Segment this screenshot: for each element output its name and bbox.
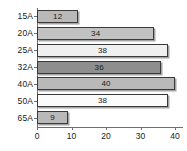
x-tick-label-20: 20 (101, 131, 110, 141)
bar-value-20a: 34 (37, 27, 154, 40)
x-tick-label-30: 30 (136, 131, 145, 141)
category-label-65a: 65A (18, 113, 33, 123)
category-label-15a: 15A (18, 11, 33, 21)
bar-row: 40A40 (37, 77, 182, 90)
bar-row: 50A38 (37, 94, 182, 107)
bar-value-40a: 40 (37, 77, 175, 90)
category-label-32a: 32A (18, 62, 33, 72)
y-tick (34, 118, 37, 119)
y-tick (34, 84, 37, 85)
bar-row: 15A12 (37, 10, 182, 23)
x-tick (106, 127, 107, 130)
x-tick (72, 127, 73, 130)
x-tick (141, 127, 142, 130)
bar-row: 20A34 (37, 27, 182, 40)
x-axis-line (37, 127, 183, 128)
category-label-25a: 25A (18, 45, 33, 55)
x-tick-label-10: 10 (67, 131, 76, 141)
x-tick (175, 127, 176, 130)
y-tick (34, 101, 37, 102)
category-label-20a: 20A (18, 28, 33, 38)
y-tick (34, 50, 37, 51)
x-tick-label-40: 40 (170, 131, 179, 141)
category-label-40a: 40A (18, 79, 33, 89)
y-tick (34, 67, 37, 68)
bar-chart: 15A1220A3425A3832A3640A4050A3865A9 01020… (0, 0, 187, 151)
bar-value-25a: 38 (37, 44, 168, 57)
y-tick (34, 33, 37, 34)
bar-row: 65A9 (37, 111, 182, 124)
bar-row: 25A38 (37, 44, 182, 57)
x-tick (37, 127, 38, 130)
category-label-50a: 50A (18, 96, 33, 106)
bar-value-65a: 9 (37, 111, 68, 124)
y-tick (34, 16, 37, 17)
bar-value-50a: 38 (37, 94, 168, 107)
caption-text (0, 144, 187, 151)
x-tick-label-0: 0 (35, 131, 40, 141)
bar-value-15a: 12 (37, 10, 78, 23)
bar-value-32a: 36 (37, 61, 161, 74)
plot-area: 15A1220A3425A3832A3640A4050A3865A9 (37, 8, 182, 126)
bar-row: 32A36 (37, 61, 182, 74)
